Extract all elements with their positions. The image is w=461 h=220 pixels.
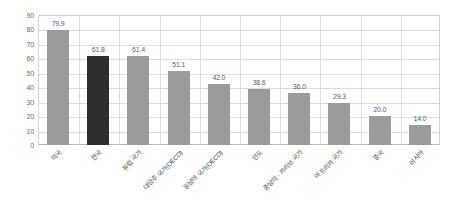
bar-group: 29.3 xyxy=(319,15,359,145)
bar xyxy=(248,89,270,145)
x-axis-tick: 한국 xyxy=(78,147,118,220)
bar xyxy=(328,103,350,145)
bar-group: 42.0 xyxy=(199,15,239,145)
x-axis: 미국한국유럽 국가대양주 국가(OECD)동남아 국가(OECD)인도중남미 ·… xyxy=(38,147,440,220)
bars-layer: 79.961.861.451.142.038.636.029.320.014.0 xyxy=(38,15,440,145)
x-axis-tick-label: 인도 xyxy=(251,149,264,162)
bar-value-label: 61.4 xyxy=(132,46,145,53)
bar xyxy=(127,56,149,145)
x-axis-tick-label: 중국 xyxy=(371,149,384,162)
x-axis-tick: 아프리카 국가 xyxy=(319,147,359,220)
bar xyxy=(208,84,230,145)
y-axis-tick-label: 70 xyxy=(27,40,34,47)
y-axis-tick-label: 60 xyxy=(27,55,34,62)
bar xyxy=(87,56,109,145)
x-axis-tick: 중국 xyxy=(360,147,400,220)
x-axis-tick: 러시아 xyxy=(400,147,440,220)
bar xyxy=(409,125,431,145)
bar-group: 79.9 xyxy=(38,15,78,145)
x-axis-tick-label: 러시아 xyxy=(408,149,425,166)
bar-value-label: 79.9 xyxy=(52,20,65,27)
bar-value-label: 29.3 xyxy=(333,93,346,100)
y-axis-tick-label: 40 xyxy=(27,84,34,91)
bar xyxy=(168,71,190,145)
bar-value-label: 61.8 xyxy=(92,46,105,53)
bar-value-label: 14.0 xyxy=(413,115,426,122)
y-axis-tick-label: 80 xyxy=(27,26,34,33)
y-axis-tick-label: 50 xyxy=(27,69,34,76)
x-axis-tick-label: 유럽 국가 xyxy=(121,149,144,172)
bar-value-label: 42.0 xyxy=(212,74,225,81)
y-axis-tick-label: 90 xyxy=(27,12,34,19)
x-axis-tick-label: 한국 xyxy=(90,149,103,162)
bar xyxy=(369,116,391,145)
bar-group: 20.0 xyxy=(360,15,400,145)
bar-value-label: 38.6 xyxy=(253,79,266,86)
x-axis-tick: 동남아 국가(OECD) xyxy=(199,147,239,220)
x-axis-tick: 미국 xyxy=(38,147,78,220)
bar-group: 61.4 xyxy=(118,15,158,145)
bar-chart: 0102030405060708090 79.961.861.451.142.0… xyxy=(0,0,461,220)
bar-group: 61.8 xyxy=(78,15,118,145)
x-axis-tick: 중남미 · 카리브 국가 xyxy=(279,147,319,220)
y-axis-tick-label: 10 xyxy=(27,127,34,134)
bar-group: 36.0 xyxy=(279,15,319,145)
bar-group: 14.0 xyxy=(400,15,440,145)
bar-value-label: 36.0 xyxy=(293,83,306,90)
y-axis-tick-label: 30 xyxy=(27,98,34,105)
y-axis: 0102030405060708090 xyxy=(0,15,34,145)
x-axis-tick-label: 미국 xyxy=(50,149,63,162)
bar-group: 51.1 xyxy=(159,15,199,145)
y-axis-tick-label: 0 xyxy=(30,142,34,149)
bar-value-label: 20.0 xyxy=(373,106,386,113)
bar xyxy=(47,30,69,145)
bar-group: 38.6 xyxy=(239,15,279,145)
bar-value-label: 51.1 xyxy=(172,61,185,68)
y-axis-tick-label: 20 xyxy=(27,113,34,120)
bar xyxy=(288,93,310,145)
